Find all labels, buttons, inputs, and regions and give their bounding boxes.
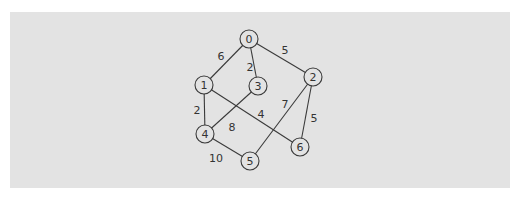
node-1: 1 (195, 76, 213, 94)
edge-weight-2-5: 7 (282, 98, 289, 111)
edge-weight-3-4: 8 (229, 121, 236, 134)
node-label: 2 (310, 71, 317, 84)
node-0: 0 (240, 30, 258, 48)
edge-1-6 (204, 85, 300, 147)
edge-weight-4-5: 10 (209, 152, 223, 165)
edge-weight-0-2: 5 (282, 44, 289, 57)
node-5: 5 (241, 152, 259, 170)
node-label: 1 (201, 79, 208, 92)
edge-weight-2-6: 5 (311, 112, 318, 125)
node-label: 5 (247, 155, 254, 168)
node-label: 6 (297, 141, 304, 154)
node-label: 4 (202, 128, 209, 141)
edge-weight-0-3: 2 (247, 61, 254, 74)
graph-diagram: 62524875100123456 (0, 0, 520, 201)
node-3: 3 (249, 77, 267, 95)
edge-0-1 (204, 39, 249, 85)
edge-weight-0-1: 6 (218, 50, 225, 63)
edge-weight-1-6: 4 (258, 108, 265, 121)
node-6: 6 (291, 138, 309, 156)
node-label: 3 (255, 80, 262, 93)
node-4: 4 (196, 125, 214, 143)
node-2: 2 (304, 68, 322, 86)
node-label: 0 (246, 33, 253, 46)
edge-weight-1-4: 2 (194, 104, 201, 117)
